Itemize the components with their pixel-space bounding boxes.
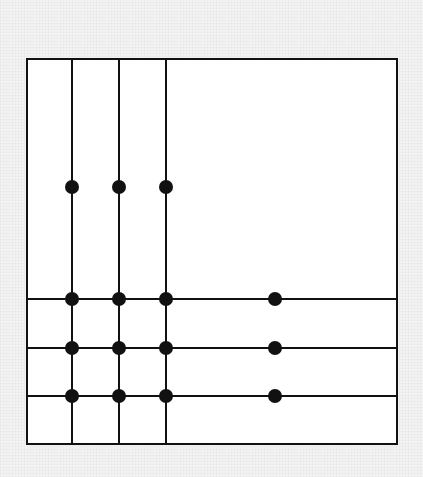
dot-node [159,180,173,194]
line-dot-diagram [0,0,423,477]
dot-node [159,341,173,355]
dot-node [65,341,79,355]
grid-diagram [0,0,423,477]
dot-node [112,341,126,355]
diagram-frame [27,59,397,444]
dot-node [268,389,282,403]
dot-node [268,341,282,355]
dot-node [65,292,79,306]
dot-node [112,389,126,403]
dot-node [112,292,126,306]
dot-node [65,389,79,403]
dot-node [112,180,126,194]
dot-node [159,292,173,306]
dot-node [268,292,282,306]
dot-node [159,389,173,403]
dot-node [65,180,79,194]
